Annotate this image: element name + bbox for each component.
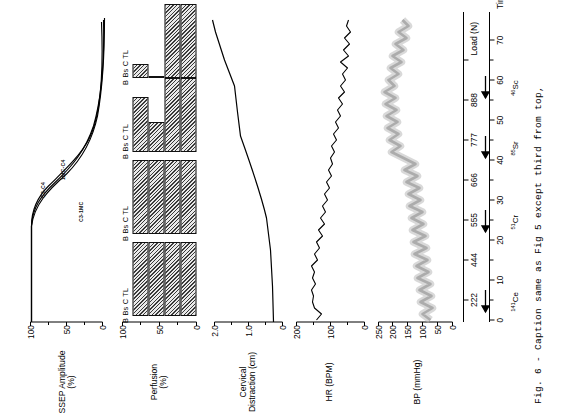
- ssep-plot: C3-C4 1MC-C4 C3-1MC: [23, 12, 111, 322]
- bp-plot-area: [371, 12, 464, 322]
- hr-tick-200: 200: [292, 325, 302, 339]
- bp-svg: [371, 12, 464, 322]
- hr-axis-label: HR (BPM): [289, 350, 371, 414]
- bp-plot: [371, 12, 464, 322]
- load-axis-title: Load (N): [469, 22, 479, 55]
- cervical-axis-label: Cervical Distraction (cm): [207, 350, 289, 414]
- perfusion-plot-area: B Bs C TL B Bs C TL: [111, 12, 207, 322]
- panel-ssep: SSEP Amplitude (%) 100 50 0: [23, 0, 111, 414]
- cervical-tick-2: 2.0: [210, 325, 220, 337]
- hr-svg: [289, 12, 371, 322]
- panel-blood-pressure: BP (mmHg) 250 200 150 100 50 0: [371, 0, 464, 414]
- isotope-element-sr: Sr: [511, 141, 520, 149]
- perfusion-bar-bs: [165, 160, 181, 234]
- perfusion-bar-c: [149, 160, 165, 234]
- time-tick-0: 0: [495, 318, 505, 323]
- cervical-tick-numbers: 2.0 1.0 0: [207, 324, 289, 350]
- perfusion-bar-b: [181, 160, 197, 234]
- time-tick-70: 70: [495, 36, 505, 45]
- ssep-curve-label-1mcc4: 1MC-C4: [60, 159, 66, 180]
- ssep-tick-numbers: 100 50 0: [23, 324, 111, 350]
- load-tick-222: 222: [469, 293, 479, 307]
- perfusion-bar-c: [149, 122, 165, 152]
- ssep-curve-label-c3c4: C3-C4: [40, 182, 46, 198]
- perfusion-bar-b: [181, 78, 197, 152]
- ssep-svg: [23, 12, 111, 322]
- isotope-label-sr: 85Sr: [510, 141, 521, 155]
- time-tick-50: 50: [495, 116, 505, 125]
- isotope-mass-sr: 85: [510, 149, 516, 155]
- load-axis: 222 444 555 666 777 888 Load (N): [464, 12, 484, 322]
- perfusion-bar-c: [149, 242, 165, 316]
- load-tick-888: 888: [469, 93, 479, 107]
- load-tick-777: 777: [469, 133, 479, 147]
- ssep-axis-label-line2: (%): [67, 375, 76, 388]
- isotope-element-ce: Ce: [511, 292, 520, 302]
- time-tick-60: 60: [495, 76, 505, 85]
- hr-plot-area: [289, 12, 371, 322]
- isotope-element-cr: Cr: [511, 215, 520, 223]
- ssep-axis-label: SSEP Amplitude (%): [23, 350, 111, 414]
- cervical-axis-label-line2: Distraction (cm): [248, 352, 257, 412]
- perfusion-bar-tl: [133, 160, 149, 234]
- cervical-plot: [207, 12, 289, 322]
- hr-tick-numbers: 200 100 0: [289, 324, 371, 350]
- bp-tick-numbers: 250 200 150 100 50 0: [371, 324, 464, 350]
- time-tick-30: 30: [495, 196, 505, 205]
- time-tick-40: 40: [495, 156, 505, 165]
- perfusion-tick-50: 50: [155, 325, 165, 334]
- shared-x-axis: 222 444 555 666 777 888 Load (N): [464, 0, 538, 414]
- perfusion-bar-tl: [133, 64, 149, 78]
- bp-axis-label: BP (mmHg): [371, 350, 464, 414]
- perfusion-bar-c: [149, 76, 165, 78]
- panel-perfusion: Perfusion (%) 100 50 0: [111, 0, 207, 414]
- perfusion-group-label-3: B Bs C TL: [121, 124, 130, 159]
- bp-tick-150: 150: [403, 325, 413, 339]
- panel-heart-rate: HR (BPM) 200 100 0: [289, 0, 371, 414]
- isotope-mass-sc: 46: [510, 89, 516, 95]
- ssep-tick-50: 50: [62, 325, 72, 334]
- isotope-label-sc: 46Sc: [510, 80, 521, 96]
- time-tick-20: 20: [495, 236, 505, 245]
- load-tick-444: 444: [469, 253, 479, 267]
- bp-tick-50: 50: [433, 325, 443, 334]
- perfusion-bar-tl: [133, 97, 149, 152]
- time-axis-title: Time (min): [495, 0, 505, 9]
- perfusion-plot: B Bs C TL B Bs C TL: [111, 12, 207, 322]
- load-tick-666: 666: [469, 173, 479, 187]
- bp-axis-label-line1: BP (mmHg): [412, 360, 421, 405]
- figure-caption-text: Fig. 6 - Caption same as Fig 5 except th…: [533, 86, 544, 404]
- perfusion-bar-bs: [165, 78, 181, 152]
- cervical-plot-area: [207, 12, 289, 322]
- isotope-label-cr: 51Cr: [510, 215, 521, 230]
- isotope-element-sc: Sc: [511, 80, 520, 89]
- perfusion-axis-label-line2: (%): [159, 375, 168, 388]
- panel-cervical-distraction: Cervical Distraction (cm) 2.0 1.0 0: [207, 0, 289, 414]
- cervical-tick-1: 1.0: [244, 325, 254, 337]
- load-axis-svg: [464, 12, 484, 322]
- ssep-curve-label-c31mc: C3-1MC: [78, 201, 84, 222]
- perfusion-bar-bs: [165, 4, 181, 78]
- figure-caption: Fig. 6 - Caption same as Fig 5 except th…: [533, 0, 544, 414]
- rotated-figure-body: SSEP Amplitude (%) 100 50 0: [23, 0, 548, 414]
- perfusion-group-label-4: B Bs C TL: [121, 50, 130, 85]
- time-axis: 0 10 20 30 40 50 60 70 Time (min) 141Ce …: [490, 12, 536, 322]
- cervical-svg: [207, 12, 289, 322]
- ssep-plot-area: C3-C4 1MC-C4 C3-1MC: [23, 12, 111, 322]
- perfusion-tick-numbers: 100 50 0: [111, 324, 207, 350]
- perfusion-bar-tl: [133, 242, 149, 316]
- perfusion-tick-100: 100: [118, 325, 128, 339]
- perfusion-group-label-2: B Bs C TL: [121, 206, 130, 241]
- ssep-tick-100: 100: [26, 325, 36, 339]
- isotope-mass-cr: 51: [510, 223, 516, 229]
- time-tick-10: 10: [495, 275, 505, 284]
- isotope-mass-ce: 141: [510, 302, 516, 312]
- perfusion-group-label-1: B Bs C TL: [121, 288, 130, 323]
- perfusion-axis-label: Perfusion (%): [111, 350, 207, 414]
- load-tick-555: 555: [469, 213, 479, 227]
- figure-canvas: SSEP Amplitude (%) 100 50 0: [0, 0, 570, 414]
- bp-tick-200: 200: [388, 325, 398, 339]
- hr-plot: [289, 12, 371, 322]
- perfusion-bar-b: [181, 4, 197, 78]
- bp-tick-250: 250: [374, 325, 384, 339]
